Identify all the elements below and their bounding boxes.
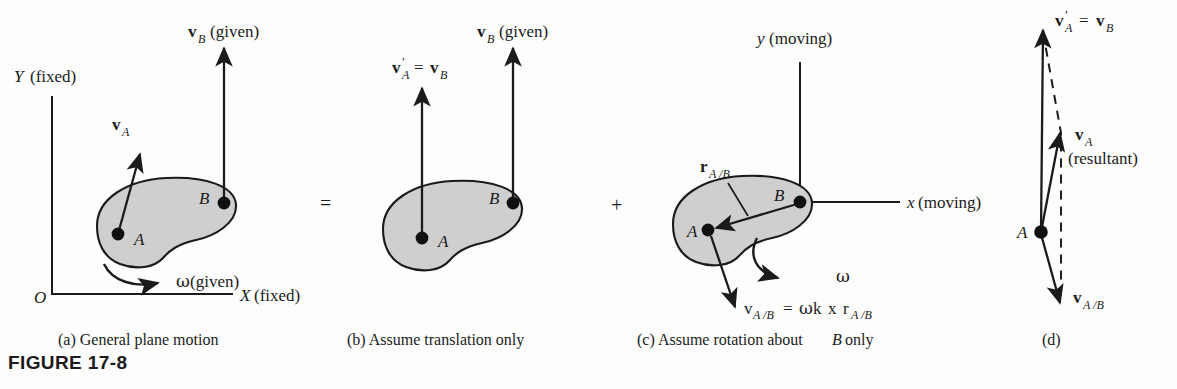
relative-velocity-symbol-d: v [1073,288,1082,307]
relative-velocity-r-subscript: A /B [850,308,872,322]
panel-c-caption-lead: (c) Assume rotation about [637,331,803,349]
moving-y-label-paren: (moving) [769,29,832,48]
velocity-b-subscript: B [198,32,206,46]
velocity-a-prime-rhs-subscript-d: B [1106,21,1114,35]
point-a-label-d: A [1016,223,1028,242]
moving-y-label-letter: y [755,29,765,48]
panel-c-caption-tail: only [845,331,873,349]
relative-velocity-r-symbol: r [843,299,849,318]
velocity-a-prime-subscript: A [401,68,410,82]
omega-symbol-c: ω [836,266,850,286]
panel-a: Y (fixed) X (fixed) O v A v B (given) A … [14,22,300,349]
velocity-a-prime-equals-d: = [1079,11,1089,30]
x-axis-label-paren: (fixed) [254,286,300,305]
velocity-b-subscript-b: B [487,32,495,46]
panel-b-caption: (b) Assume translation only [347,331,524,349]
point-b-label: B [199,189,210,208]
velocity-a-prime-rhs-symbol-d: v [1096,11,1105,30]
panel-c: y (moving) x (moving) r A /B A B ω v A /… [637,29,981,349]
velocity-b-note-b: (given) [499,22,548,41]
velocity-b-symbol-b: v [477,22,486,41]
relative-velocity-subscript-d: A /B [1082,298,1104,312]
point-a-dot-d [1034,225,1048,239]
velocity-a-symbol-d: v [1075,125,1084,144]
omega-note-a: (given) [190,272,239,291]
origin-label: O [34,288,46,307]
moving-x-label-letter: x [906,193,915,212]
operator-equals: = [320,192,331,214]
velocity-a-resultant-note: (resultant) [1068,149,1138,168]
x-axis-label-letter: X [239,286,251,305]
relative-velocity-equals: = [783,299,793,318]
point-a-dot-c [702,224,715,237]
point-b-dot-b [507,197,520,210]
point-a-dot [112,228,125,241]
figure-17-8: Y (fixed) X (fixed) O v A v B (given) A … [0,0,1177,389]
velocity-a-subscript-d: A [1084,135,1093,149]
operator-plus: + [611,194,622,216]
relative-velocity-cross: x [828,299,837,318]
velocity-a-prime-mark: ′ [402,54,405,69]
panel-d-caption: (d) [1042,331,1061,349]
velocity-a-prime-equals: = [414,58,424,77]
figure-number-label: FIGURE 17-8 [8,352,128,374]
velocity-b-symbol: v [188,22,197,41]
velocity-a-prime-subscript-d: A [1064,21,1073,35]
relative-velocity-vector-d [1041,234,1060,303]
panel-c-caption-italic-letter: B [832,331,842,348]
panel-d: v ′ A = v B v A (resultant) v A /B A (d) [1016,7,1138,349]
relative-position-symbol: r [700,157,708,176]
relative-velocity-omega: ω [799,298,813,318]
point-b-label-b: B [489,189,500,208]
construction-dashed-line [1043,32,1061,300]
omega-symbol-a: ω [176,271,190,291]
panel-a-caption: (a) General plane motion [58,331,218,349]
relative-velocity-lhs-subscript: A /B [752,308,774,322]
rigid-body-shape-a [97,178,236,268]
point-b-label-c: B [774,186,785,205]
velocity-a-prime-rhs-subscript: B [440,68,448,82]
velocity-a-prime-rhs-symbol: v [430,58,439,77]
velocity-a-subscript: A [121,125,130,139]
moving-x-label-paren: (moving) [918,193,981,212]
velocity-a-prime-vector-d [1041,30,1043,232]
relative-velocity-k-unit: k [813,299,822,318]
point-a-dot-b [416,232,429,245]
velocity-b-note: (given) [210,22,259,41]
point-a-label-c: A [686,222,698,241]
point-b-dot [218,197,231,210]
relative-velocity-lhs-symbol: v [744,299,753,318]
velocity-a-symbol: v [112,115,121,134]
y-axis-label-letter: Y [14,67,25,86]
point-a-label-b: A [437,232,449,251]
velocity-a-prime-symbol: v [392,58,401,77]
relative-position-subscript: A /B [708,167,730,181]
velocity-a-prime-mark-d: ′ [1065,7,1068,22]
figure-canvas: Y (fixed) X (fixed) O v A v B (given) A … [0,0,1177,389]
velocity-a-prime-symbol-d: v [1055,11,1064,30]
panel-b: v ′ A = v B v B (given) A B (b) Assume t… [347,22,548,349]
velocity-a-resultant-vector-d [1041,133,1060,232]
omega-arc-c [753,238,778,278]
point-b-dot-c [794,196,807,209]
y-axis-label-paren: (fixed) [30,67,76,86]
rigid-body-shape-b [383,181,522,271]
point-a-label: A [133,230,145,249]
